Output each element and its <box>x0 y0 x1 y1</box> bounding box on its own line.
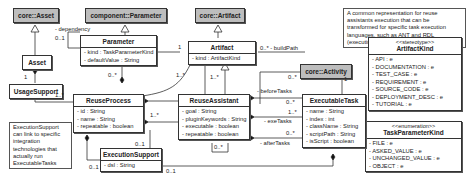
attribute: - SOURCE_CODE : e <box>372 86 458 94</box>
label-exe-tasks: - exeTasks <box>264 118 292 125</box>
label-process-assistant-mult: 1..* <box>150 112 159 119</box>
label-before-mult: 0..* <box>286 99 295 106</box>
attribute: - UNCHANGED_VALUE : e <box>369 155 458 163</box>
attribute: - OBJECT : e <box>369 163 458 171</box>
class-name: core::Artifact <box>196 9 244 22</box>
class-core-asset[interactable]: core::Asset <box>13 8 59 23</box>
attribute: - repeatable : boolean <box>182 131 246 139</box>
stereotype: <<enumeration>> <box>366 122 461 129</box>
attribute: - index : int <box>306 116 362 124</box>
class-parameter[interactable]: Parameter - kind : TaskParameterKind - d… <box>80 35 157 66</box>
attribute: - ASKED_VALUE : e <box>369 148 458 156</box>
label-process-exec-mult-bottom: 0..1 <box>89 164 99 171</box>
attributes: - API : e - DOCUMENTATION : e - TEST_CAS… <box>369 55 461 110</box>
attribute: - DOCUMENTATION : e <box>372 64 458 72</box>
class-reuse-assistant[interactable]: ReuseAssistant - goal : String - pluginK… <box>178 94 250 140</box>
class-asset[interactable]: Asset <box>22 55 52 70</box>
note-left: ExecutionSupport can link to specific in… <box>9 122 72 169</box>
attribute: - kind : TaskParameterKind <box>84 49 153 57</box>
attribute: - goal : String <box>182 108 246 116</box>
class-reuse-process[interactable]: ReuseProcess - id : String - name : Stri… <box>73 94 144 133</box>
attribute: - repeatable : boolean <box>77 123 140 131</box>
label-activity-mult-right: 1 <box>344 76 347 83</box>
attributes: - name : String - index : int - classNam… <box>303 107 365 147</box>
class-name: core::Asset <box>14 9 58 22</box>
attributes: - id : String - name : String - repeatab… <box>74 107 143 132</box>
class-name: component::Parameter <box>86 9 166 22</box>
class-core-artifact[interactable]: core::Artifact <box>195 8 245 23</box>
attributes: - dsl : String <box>101 161 161 171</box>
attribute: - dsl : String <box>104 162 158 170</box>
attribute: - name : String <box>77 116 140 124</box>
class-name: Asset <box>23 56 51 69</box>
label-param-artifact-mult: 1 <box>178 44 181 51</box>
attribute: - TEST_CASE : e <box>372 71 458 79</box>
attribute: - scriptPath : String <box>306 131 362 139</box>
label-assistant-self-mult: 0..* <box>214 144 223 151</box>
attribute: - API : e <box>372 56 458 64</box>
attribute: - executable : boolean <box>182 123 246 131</box>
label-assistant-artifact-mult: 1..* <box>210 74 219 81</box>
label-dep-mult: 0..1 <box>55 35 65 42</box>
attributes: - goal : String - pluginKeywords : Strin… <box>179 107 249 139</box>
attribute: - name : String <box>306 108 362 116</box>
attribute: - TUTORIAL : e <box>372 101 458 109</box>
label-after-tasks: - afterTasks <box>260 140 290 147</box>
label-asset-usage-mult: 1 <box>24 74 27 81</box>
label-usage-process-mult: 1..* <box>55 92 64 99</box>
attributes: - FILE : e - ASKED_VALUE : e - UNCHANGED… <box>366 139 461 171</box>
class-artifact[interactable]: Artifact - kind : ArtifactKind <box>188 41 256 65</box>
class-name: TaskParameterKind <box>366 129 461 139</box>
class-name: Artifact <box>189 42 255 54</box>
label-activity-mult-left: 0..* <box>288 74 297 81</box>
class-name: ReuseProcess <box>74 95 143 107</box>
attribute: - pluginKeywords : String <box>182 116 246 124</box>
class-execution-support[interactable]: ExecutionSupport - dsl : String <box>100 148 162 172</box>
class-component-parameter[interactable]: component::Parameter <box>85 8 167 23</box>
attribute: - className : String <box>306 123 362 131</box>
attribute: - FILE : e <box>369 140 458 148</box>
attributes: - kind : ArtifactKind <box>189 54 255 64</box>
class-artifact-kind[interactable]: <<stereotype>> ArtifactKind - API : e - … <box>368 37 462 111</box>
attribute: - id : String <box>77 108 140 116</box>
stereotype: <<stereotype>> <box>369 38 461 45</box>
label-before-tasks: - beforeTasks <box>257 88 292 95</box>
label-build-path: 0..* - buildPath <box>260 45 298 52</box>
class-name: ExecutionSupport <box>101 149 161 161</box>
class-name: ArtifactKind <box>369 45 461 55</box>
attribute: - REQUIREMENT : e <box>372 79 458 87</box>
attribute: - isScript : boolean <box>306 138 362 146</box>
label-process-artifact-mult: 1..* <box>176 72 185 79</box>
class-name: ReuseAssistant <box>179 95 249 107</box>
attribute: - kind : ArtifactKind <box>192 55 252 63</box>
class-name: ExecutableTask <box>303 95 365 107</box>
label-task-exec-mult: 0..1 <box>166 168 176 175</box>
attributes: - kind : TaskParameterKind - defaultValu… <box>81 48 156 65</box>
attribute: - DEPLOYMENT_DESC : e <box>372 94 458 102</box>
class-name: Parameter <box>81 36 156 48</box>
class-task-parameter-kind[interactable]: <<enumeration>> TaskParameterKind - FILE… <box>365 121 462 172</box>
label-after-mult: 0..* <box>286 130 295 137</box>
attribute: - defaultValue : String <box>84 57 153 65</box>
label-process-exec-mult-top: 0..1 <box>135 141 145 148</box>
class-executable-task[interactable]: ExecutableTask - name : String - index :… <box>302 94 366 148</box>
label-dependency: - dependency <box>55 26 90 33</box>
label-exe-mult: 1..* <box>288 109 297 116</box>
label-param-mult: 0..* <box>108 72 117 79</box>
